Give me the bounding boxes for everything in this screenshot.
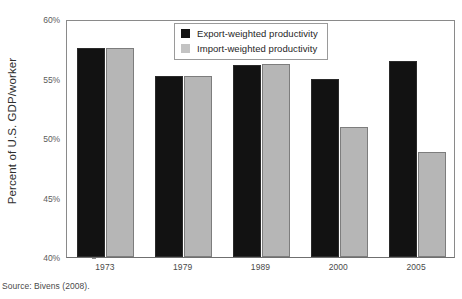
legend-label-import: Import-weighted productivity (197, 43, 317, 54)
x-axis-tick-labels: 19731979198920002005 (66, 262, 455, 278)
bar-export-1989 (233, 65, 261, 257)
legend-item-import: Import-weighted productivity (181, 43, 318, 54)
bar-import-1989 (262, 64, 290, 257)
x-tick-label: 1973 (75, 262, 135, 272)
y-tick-label: 60% (30, 15, 60, 25)
chart-legend: Export-weighted productivity Import-weig… (174, 23, 328, 60)
x-tick-label: 2000 (308, 262, 368, 272)
bar-import-1973 (106, 48, 134, 257)
y-tick-label: 45% (30, 194, 60, 204)
bar-import-2005 (418, 152, 446, 257)
y-axis-title: Percent of U.S. GDP/worker (0, 0, 24, 262)
source-note: Source: Bivens (2008). (2, 281, 90, 291)
x-tick-label: 2005 (386, 262, 446, 272)
bar-export-2000 (311, 79, 339, 258)
bar-group (389, 21, 446, 257)
legend-item-export: Export-weighted productivity (181, 28, 318, 39)
y-tick-label: 55% (30, 75, 60, 85)
bar-export-1979 (155, 76, 183, 257)
y-tick-label: 40% (30, 253, 60, 263)
bar-export-2005 (389, 61, 417, 257)
x-tick-label: 1989 (231, 262, 291, 272)
bar-import-1979 (184, 76, 212, 257)
x-tick-label: 1979 (153, 262, 213, 272)
y-tick-label: 50% (30, 134, 60, 144)
y-axis-tick-labels: 60%55%50%45%40% (30, 0, 64, 299)
legend-label-export: Export-weighted productivity (197, 28, 318, 39)
y-axis-title-label: Percent of U.S. GDP/worker (6, 58, 18, 204)
legend-swatch-export-icon (181, 29, 190, 38)
bar-export-1973 (77, 48, 105, 257)
y-tick-mark (92, 258, 96, 259)
legend-swatch-import-icon (181, 44, 190, 53)
bar-import-2000 (340, 127, 368, 257)
figure-container: Percent of U.S. GDP/worker 60%55%50%45%4… (0, 0, 462, 299)
bar-group (77, 21, 134, 257)
